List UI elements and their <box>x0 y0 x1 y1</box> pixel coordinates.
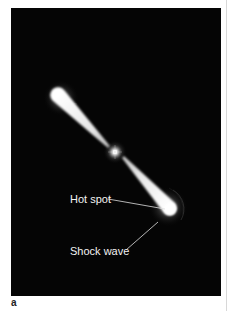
upper-left-jet <box>50 87 110 148</box>
hot-spot-point <box>164 203 176 215</box>
hot-spot-label: Hot spot <box>70 193 111 205</box>
page-edge-divider <box>226 0 227 311</box>
jet-illustration-panel: Hot spot Shock wave <box>11 8 221 296</box>
shock-wave-leader-line <box>126 222 158 250</box>
shock-wave-label: Shock wave <box>70 245 129 257</box>
panel-letter: a <box>11 298 17 308</box>
